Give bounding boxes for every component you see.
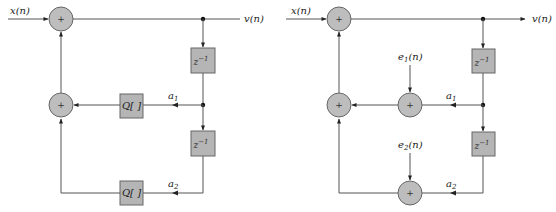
noise-e2-label: e2(n) xyxy=(398,139,423,152)
coef-a1-right: a1 xyxy=(446,90,456,103)
adder-top-symbol: + xyxy=(57,14,65,24)
block-diagram-figure: x(n) + v(n) z−1 a1 Q[ ] + z−1 a2 Q[ ] xyxy=(0,0,556,212)
coef-a1: a1 xyxy=(168,90,178,103)
output-label-right: v(n) xyxy=(532,13,552,24)
input-label-right: x(n) xyxy=(291,5,311,16)
svg-text:Q[ ]: Q[ ] xyxy=(122,100,141,111)
svg-text:+: + xyxy=(406,100,414,110)
svg-text:+: + xyxy=(335,100,343,110)
a1-arrow xyxy=(172,103,178,108)
noise-e1-label: e1(n) xyxy=(398,51,423,64)
input-label: x(n) xyxy=(10,5,30,16)
coef-a2: a2 xyxy=(168,178,179,191)
right-diagram: x(n) + v(n) z−1 a1 e1(n) + + z−1 a2 e2(n… xyxy=(286,5,552,205)
svg-text:Q[ ]: Q[ ] xyxy=(122,187,141,198)
svg-text:+: + xyxy=(335,14,343,24)
svg-text:+: + xyxy=(406,188,414,198)
output-label: v(n) xyxy=(244,13,264,24)
left-diagram: x(n) + v(n) z−1 a1 Q[ ] + z−1 a2 Q[ ] xyxy=(8,5,264,205)
a2-arrow xyxy=(172,191,178,196)
coef-a2-right: a2 xyxy=(446,178,457,191)
svg-text:+: + xyxy=(57,100,65,110)
